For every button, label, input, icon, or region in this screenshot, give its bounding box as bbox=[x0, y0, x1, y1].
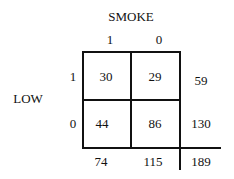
column-level-1: 1 bbox=[100, 33, 120, 46]
cell-r0-c0: 86 bbox=[145, 117, 165, 130]
column-total-0: 115 bbox=[140, 155, 166, 168]
box-right-line bbox=[179, 51, 181, 170]
column-total-1: 74 bbox=[91, 155, 111, 168]
cell-r0-c1: 44 bbox=[92, 117, 112, 130]
row-total-0: 130 bbox=[188, 117, 214, 130]
box-middle-horizontal-line bbox=[82, 99, 181, 101]
box-top-line bbox=[82, 51, 181, 53]
cell-r1-c1: 30 bbox=[96, 70, 116, 83]
box-bottom-line bbox=[82, 147, 221, 149]
cell-r1-c0: 29 bbox=[145, 70, 165, 83]
grand-total: 189 bbox=[188, 155, 214, 168]
row-level-0: 0 bbox=[67, 117, 79, 130]
column-variable-label: SMOKE bbox=[106, 10, 156, 23]
column-level-0: 0 bbox=[149, 33, 169, 46]
row-level-1: 1 bbox=[67, 70, 79, 83]
row-variable-label: LOW bbox=[8, 92, 48, 105]
row-total-1: 59 bbox=[190, 74, 212, 87]
